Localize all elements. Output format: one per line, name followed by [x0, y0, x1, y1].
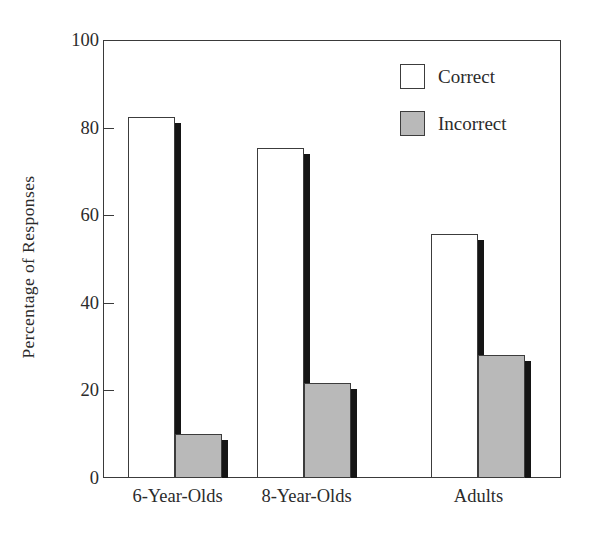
legend-swatch-correct-icon — [400, 64, 425, 89]
y-tick-40 — [104, 303, 114, 304]
legend-item-correct: Correct — [400, 64, 495, 89]
bar-incorrect-adults — [478, 355, 525, 478]
legend-label-incorrect: Incorrect — [438, 114, 507, 133]
bar-correct-8-year-olds — [257, 148, 304, 478]
legend-swatch-incorrect-icon — [400, 111, 425, 136]
chart-figure: Percentage of Responses 100 80 60 40 20 … — [0, 0, 596, 534]
y-tick-label-100: 100 — [71, 31, 99, 50]
bar-shadow-incorrect-0 — [221, 440, 228, 478]
y-tick-20 — [104, 390, 114, 391]
y-tick-label-0: 0 — [90, 469, 99, 488]
legend-label-correct: Correct — [438, 67, 495, 86]
x-category-label-8-year-olds: 8-Year-Olds — [239, 487, 374, 506]
bar-incorrect-6-year-olds — [175, 434, 222, 478]
y-tick-label-20: 20 — [81, 381, 100, 400]
y-tick-60 — [104, 215, 114, 216]
y-tick-80 — [104, 128, 114, 129]
bar-shadow-incorrect-1 — [350, 389, 357, 478]
legend-item-incorrect: Incorrect — [400, 111, 507, 136]
y-tick-label-40: 40 — [81, 294, 100, 313]
y-tick-label-60: 60 — [81, 206, 100, 225]
bar-correct-adults — [431, 234, 478, 478]
x-category-label-adults: Adults — [411, 487, 546, 506]
bar-incorrect-8-year-olds — [304, 383, 351, 478]
bar-shadow-incorrect-2 — [524, 361, 531, 478]
x-category-label-6-year-olds: 6-Year-Olds — [110, 487, 245, 506]
bar-shadow-correct-0 — [174, 123, 181, 478]
y-tick-label-80: 80 — [81, 119, 100, 138]
y-axis-title: Percentage of Responses — [8, 0, 48, 534]
bar-correct-6-year-olds — [128, 117, 175, 478]
